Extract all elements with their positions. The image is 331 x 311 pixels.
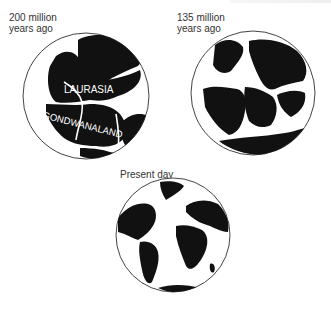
globe-135mya [189, 29, 317, 157]
globe-present [114, 176, 232, 294]
cropped-header-text [230, 0, 331, 3]
label-laurasia: LAURASIA [64, 84, 114, 95]
continental-drift-figure: 200 million years ago 135 million years … [0, 0, 331, 311]
globe-200mya: LAURASIA GONDWANALAND [20, 30, 152, 162]
